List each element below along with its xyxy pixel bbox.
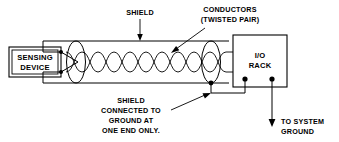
conductors-label-line1: CONDUCTORS: [203, 5, 256, 14]
shield-note-line3: GROUND AT: [109, 116, 154, 125]
twisted-pair-conductors: [66, 52, 233, 72]
shield-note-leader-line: [171, 95, 205, 110]
shield-note-line1: SHIELD: [117, 96, 145, 105]
shield-arrowhead: [137, 34, 143, 41]
conductors-leader-line: [176, 28, 205, 49]
io-rack-label-line2: RACK: [249, 61, 272, 70]
io-rack-label-line1: I/O: [255, 51, 266, 60]
shield-ground-junction-dot: [209, 81, 214, 86]
conductor-wire-b: [66, 52, 233, 72]
shield-left-cap: [67, 41, 86, 83]
shield-note-line2: CONNECTED TO: [101, 106, 161, 115]
io-rack[interactable]: I/O RACK: [233, 35, 287, 87]
shield-note-callout: [171, 93, 211, 110]
shield-note-line4: ONE END ONLY.: [102, 126, 160, 135]
system-ground-label-line2: GROUND: [281, 127, 314, 136]
shield-note-arrowhead: [203, 93, 212, 98]
shield-callout: [137, 19, 143, 41]
system-ground-arrowhead: [269, 119, 276, 127]
sensing-device-label-line2: DEVICE: [20, 63, 49, 72]
conductor-wire-a: [66, 52, 233, 72]
sensing-device-label-line1: SENSING: [17, 53, 53, 62]
shield-label: SHIELD: [126, 8, 154, 17]
system-ground-label-line1: TO SYSTEM: [281, 117, 324, 126]
shield-cylinder: [67, 41, 230, 83]
diagram-canvas: SENSING DEVICE I/O RACK: [0, 0, 339, 142]
conductors-label-line2: (TWISTED PAIR): [201, 15, 260, 24]
